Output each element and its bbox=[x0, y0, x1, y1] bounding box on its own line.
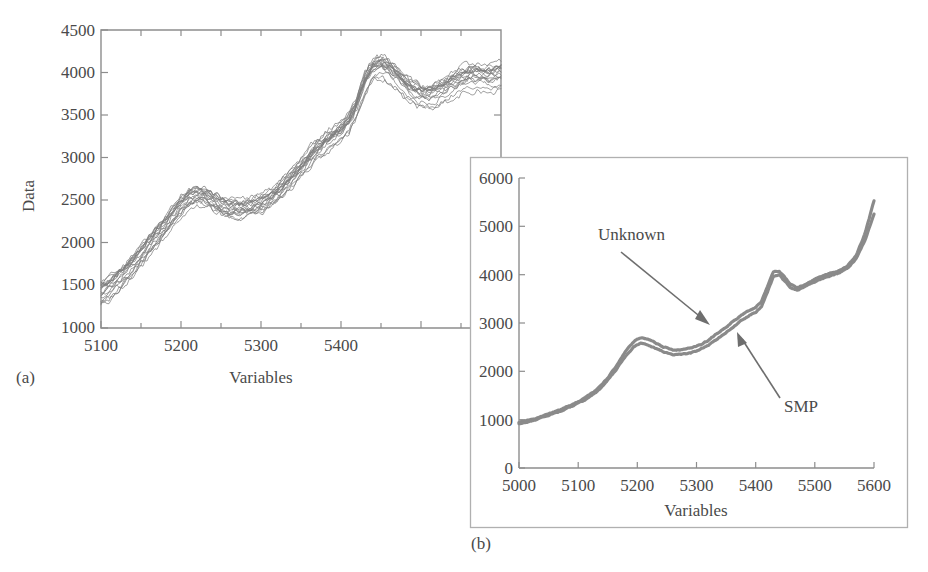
panel-b-xtick-label: 5200 bbox=[620, 476, 654, 495]
panel-a-ytick-label: 3000 bbox=[61, 148, 95, 167]
panel-b-xtick-label: 5100 bbox=[561, 476, 595, 495]
panel-a-ylabel: Data bbox=[19, 180, 38, 213]
panel-b-xtick-label: 5500 bbox=[798, 476, 832, 495]
panel-b-label: (b) bbox=[471, 534, 491, 553]
annotation-smp-label: SMP bbox=[784, 397, 818, 416]
spectrum-line bbox=[101, 63, 501, 301]
spectrum-line bbox=[101, 57, 501, 305]
panel-a-ytick-label: 4500 bbox=[61, 21, 95, 40]
panel-a-ytick-marks bbox=[101, 30, 501, 328]
panel-a-ytick-label: 1500 bbox=[61, 275, 95, 294]
figure-svg: Data 4500 4000 3500 3000 2500 2000 1500 … bbox=[0, 0, 928, 572]
panel-b-frame bbox=[471, 158, 908, 528]
panel-a-ytick-label: 4000 bbox=[61, 63, 95, 82]
panel-b-ytick-label: 2000 bbox=[479, 362, 513, 381]
panel-a: Data 4500 4000 3500 3000 2500 2000 1500 … bbox=[16, 21, 501, 387]
spectrum-line bbox=[101, 66, 501, 295]
panel-a-spectra bbox=[101, 54, 501, 305]
panel-b-xlabel: Variables bbox=[664, 501, 727, 520]
panel-a-xtick-labels: 5100 5200 5300 5400 bbox=[84, 336, 358, 355]
panel-a-ytick-label: 3500 bbox=[61, 105, 95, 124]
panel-b-xtick-label: 5600 bbox=[857, 476, 891, 495]
panel-b-ytick-label: 1000 bbox=[479, 411, 513, 430]
panel-b-ytick-label: 4000 bbox=[479, 266, 513, 285]
panel-a-xtick-label: 5300 bbox=[244, 336, 278, 355]
panel-a-xtick-label: 5200 bbox=[164, 336, 198, 355]
panel-a-ytick-label: 2500 bbox=[61, 190, 95, 209]
panel-a-xtick-label: 5100 bbox=[84, 336, 118, 355]
panel-b-ytick-label: 6000 bbox=[479, 169, 513, 188]
annotation-unknown-label: Unknown bbox=[598, 225, 666, 244]
spectrum-line bbox=[101, 77, 501, 296]
panel-a-xlabel: Variables bbox=[229, 368, 292, 387]
spectrum-line bbox=[101, 64, 501, 284]
panel-b: 6000 5000 4000 3000 2000 1000 0 bbox=[471, 158, 908, 554]
panel-b-xtick-label: 5300 bbox=[680, 476, 714, 495]
panel-a-axis-box bbox=[101, 30, 501, 328]
panel-a-ytick-label: 1000 bbox=[61, 318, 95, 337]
panel-a-label: (a) bbox=[16, 368, 35, 387]
panel-b-xtick-label: 5000 bbox=[502, 476, 536, 495]
spectrum-line bbox=[101, 73, 501, 295]
panel-b-xtick-label: 5400 bbox=[739, 476, 773, 495]
figure-root: Data 4500 4000 3500 3000 2500 2000 1500 … bbox=[0, 0, 928, 572]
panel-a-xtick-label: 5400 bbox=[324, 336, 358, 355]
panel-a-ytick-labels: 4500 4000 3500 3000 2500 2000 1500 1000 bbox=[61, 21, 95, 337]
panel-b-ytick-label: 5000 bbox=[479, 217, 513, 236]
panel-a-ytick-label: 2000 bbox=[61, 233, 95, 252]
spectrum-line bbox=[101, 76, 501, 298]
spectrum-line bbox=[101, 60, 501, 287]
panel-b-ytick-label: 3000 bbox=[479, 314, 513, 333]
